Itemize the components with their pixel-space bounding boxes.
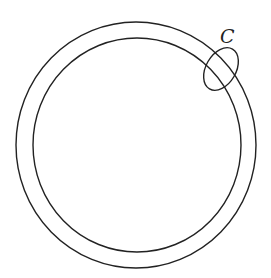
outer-circle — [16, 22, 256, 268]
loop-c — [197, 42, 246, 97]
torus-cross-section-diagram: C — [0, 0, 271, 278]
loop-c-label: C — [220, 25, 235, 47]
inner-circle — [33, 38, 241, 252]
